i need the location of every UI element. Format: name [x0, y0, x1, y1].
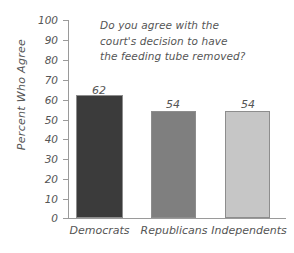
- category-label-independents: Independents: [208, 224, 290, 237]
- y-tick-100: [63, 20, 68, 21]
- y-tick-30: [63, 159, 68, 160]
- bar-chart: Do you agree with the court's decision t…: [0, 0, 294, 253]
- y-tick-label-10: 10: [18, 194, 58, 204]
- y-tick-20: [63, 179, 68, 180]
- category-label-democrats: Democrats: [62, 224, 137, 237]
- y-tick-50: [63, 120, 68, 121]
- y-tick-label-100: 100: [18, 15, 58, 25]
- y-tick-label-60: 60: [18, 95, 58, 105]
- y-tick-label-20: 20: [18, 174, 58, 184]
- chart-title: Do you agree with the court's decision t…: [100, 18, 290, 65]
- chart-title-line-1: Do you agree with the: [100, 18, 290, 34]
- y-tick-label-50: 50: [18, 115, 58, 125]
- bar-independents[interactable]: [225, 111, 270, 218]
- bar-republicans[interactable]: [151, 111, 196, 218]
- y-tick-40: [63, 139, 68, 140]
- bar-value-independents: 54: [228, 98, 268, 111]
- y-tick-label-30: 30: [18, 154, 58, 164]
- chart-title-line-2: court's decision to have: [100, 34, 290, 50]
- y-tick-80: [63, 60, 68, 61]
- category-label-republicans: Republicans: [136, 224, 212, 237]
- bar-value-republicans: 54: [153, 98, 193, 111]
- y-tick-label-70: 70: [18, 75, 58, 85]
- x-axis-line: [68, 218, 286, 219]
- y-tick-0: [63, 218, 68, 219]
- y-tick-90: [63, 40, 68, 41]
- y-tick-10: [63, 199, 68, 200]
- y-tick-label-80: 80: [18, 55, 58, 65]
- y-tick-label-40: 40: [18, 134, 58, 144]
- bar-democrats[interactable]: [76, 95, 123, 218]
- chart-title-line-3: the feeding tube removed?: [100, 49, 290, 65]
- y-tick-60: [63, 100, 68, 101]
- y-tick-70: [63, 80, 68, 81]
- bar-value-democrats: 62: [79, 84, 119, 97]
- y-axis-line: [68, 20, 69, 219]
- y-tick-label-90: 90: [18, 35, 58, 45]
- y-tick-label-0: 0: [18, 213, 58, 223]
